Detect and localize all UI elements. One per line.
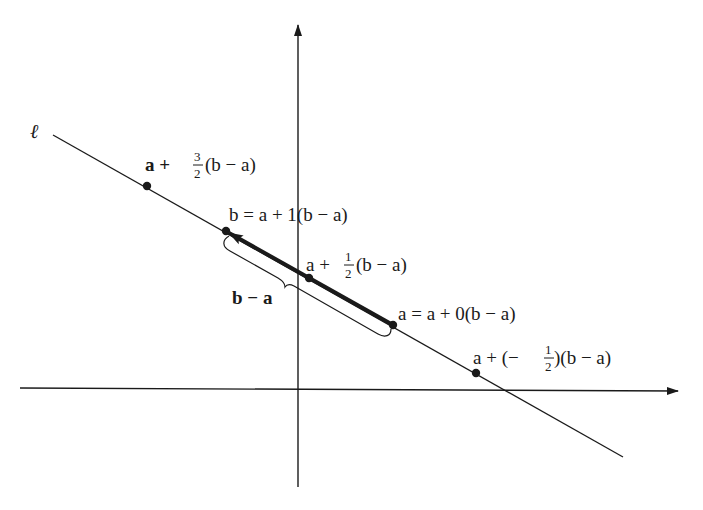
svg-text:b = a + 1(b − a): b = a + 1(b − a) — [229, 204, 348, 226]
diagram-svg: ℓ b − a a + 3 2 (b − a) b = a + 1(b − a)… — [0, 0, 703, 510]
svg-text:1: 1 — [545, 342, 552, 357]
point-half — [305, 274, 313, 282]
svg-text:a = a + 0(b − a): a = a + 0(b − a) — [398, 303, 516, 325]
svg-text:2: 2 — [194, 166, 201, 181]
point-b — [222, 227, 230, 235]
point-neg-half — [472, 369, 480, 377]
svg-text:2: 2 — [545, 359, 552, 374]
x-axis — [20, 388, 678, 391]
label-b: b = a + 1(b − a) — [229, 204, 348, 226]
svg-text:1: 1 — [345, 249, 352, 264]
vector-line-diagram: ℓ b − a a + 3 2 (b − a) b = a + 1(b − a)… — [0, 0, 703, 510]
svg-text:)(b − a): )(b − a) — [554, 347, 611, 369]
brace-label: b − a — [232, 287, 273, 308]
svg-text:a + (−: a + (− — [473, 347, 519, 369]
svg-text:(b − a): (b − a) — [356, 254, 407, 276]
label-neg-half: a + (− 1 2 )(b − a) — [473, 342, 611, 374]
label-a: a = a + 0(b − a) — [398, 303, 516, 325]
svg-text:2: 2 — [345, 266, 352, 281]
label-half: a + 1 2 (b − a) — [306, 249, 407, 281]
svg-text:(b − a): (b − a) — [205, 154, 256, 176]
point-three-halves — [143, 182, 151, 190]
line-l-label: ℓ — [30, 120, 39, 142]
svg-text:a +: a + — [306, 254, 330, 275]
svg-text:a +: a + — [145, 154, 170, 175]
label-three-halves: a + 3 2 (b − a) — [145, 149, 256, 181]
svg-text:3: 3 — [194, 149, 201, 164]
point-a — [389, 321, 397, 329]
